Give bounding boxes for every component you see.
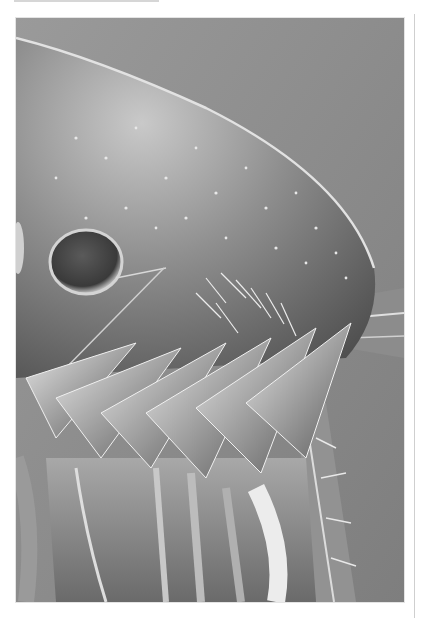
flea-head-illustration [16, 18, 404, 602]
page [0, 0, 422, 618]
sem-micrograph [16, 18, 404, 602]
right-divider [414, 14, 415, 618]
top-divider [14, 0, 159, 2]
